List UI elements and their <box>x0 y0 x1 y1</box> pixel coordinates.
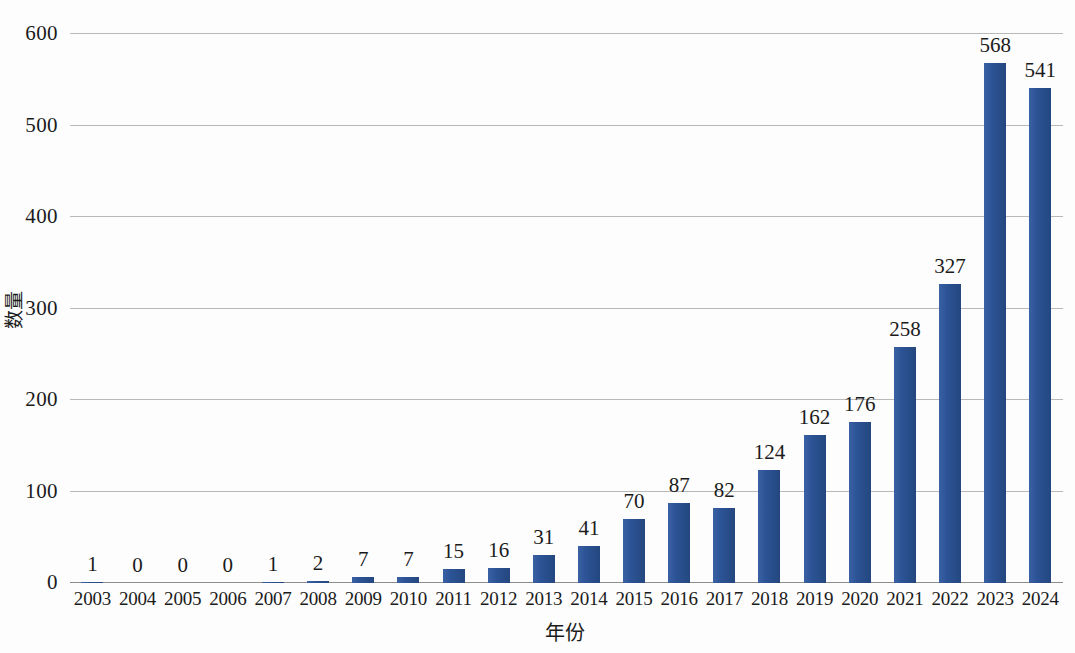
bar-group: 258 <box>882 34 927 583</box>
bar-group: 124 <box>747 34 792 583</box>
y-axis-tick-label: 0 <box>0 572 58 593</box>
x-axis-tick-label: 2017 <box>702 589 747 608</box>
bar <box>984 63 1006 583</box>
y-axis-tick-label: 200 <box>0 389 58 410</box>
bar-value-label: 541 <box>1025 60 1057 81</box>
bar-value-label: 70 <box>624 491 645 512</box>
bar-value-label: 41 <box>578 518 599 539</box>
bar-value-label: 7 <box>358 549 369 570</box>
x-axis-tick-label: 2015 <box>612 589 657 608</box>
x-axis-tick-label: 2007 <box>251 589 296 608</box>
bar-value-label: 124 <box>754 442 786 463</box>
y-axis-tick-label: 500 <box>0 115 58 136</box>
bar <box>352 577 374 583</box>
x-axis-tick-label: 2012 <box>476 589 521 608</box>
x-axis-tick-label: 2018 <box>747 589 792 608</box>
bar-group: 1 <box>70 34 115 583</box>
y-axis-tick-label: 100 <box>0 481 58 502</box>
bar <box>488 568 510 583</box>
bar <box>443 569 465 583</box>
x-axis-tick-label: 2011 <box>431 589 476 608</box>
bar-value-label: 7 <box>403 549 414 570</box>
bar-group: 7 <box>341 34 386 583</box>
bar-group: 541 <box>1018 34 1063 583</box>
bar-group: 162 <box>792 34 837 583</box>
bar-value-label: 82 <box>714 480 735 501</box>
bar-group: 82 <box>702 34 747 583</box>
bar-group: 0 <box>160 34 205 583</box>
bar-value-label: 568 <box>979 35 1011 56</box>
bar-value-label: 15 <box>443 541 464 562</box>
bar <box>307 581 329 583</box>
bar-value-label: 2 <box>313 553 324 574</box>
bar <box>397 577 419 583</box>
x-axis-tick-label: 2023 <box>973 589 1018 608</box>
x-axis-tick-label: 2014 <box>567 589 612 608</box>
bar-value-label: 176 <box>844 394 876 415</box>
bar-value-label: 0 <box>132 555 143 576</box>
bar-group: 16 <box>476 34 521 583</box>
bar-value-label: 162 <box>799 407 831 428</box>
bar-group: 1 <box>251 34 296 583</box>
bar-group: 327 <box>928 34 973 583</box>
y-axis-tick-labels: 0100200300400500600 <box>0 34 58 583</box>
y-axis-tick-label: 400 <box>0 206 58 227</box>
x-axis-tick-labels: 2003200420052006200720082009201020112012… <box>70 589 1063 617</box>
bar-value-label: 1 <box>87 554 98 575</box>
bar-group: 87 <box>657 34 702 583</box>
x-axis-tick-label: 2003 <box>70 589 115 608</box>
x-axis-tick-label: 2013 <box>521 589 566 608</box>
bar-value-label: 16 <box>488 540 509 561</box>
x-axis-tick-label: 2005 <box>160 589 205 608</box>
bar <box>1029 88 1051 583</box>
bar <box>894 347 916 583</box>
bar-group: 70 <box>612 34 657 583</box>
bar-group: 176 <box>837 34 882 583</box>
x-axis-tick-label: 2006 <box>205 589 250 608</box>
bar-value-label: 31 <box>533 527 554 548</box>
bar-group: 2 <box>296 34 341 583</box>
bar <box>849 422 871 583</box>
bar-value-label: 0 <box>177 555 188 576</box>
bar <box>713 508 735 583</box>
y-axis-tick-label: 300 <box>0 298 58 319</box>
bar <box>804 435 826 583</box>
bar-group: 568 <box>973 34 1018 583</box>
bar-value-label: 0 <box>223 555 234 576</box>
x-axis-tick-label: 2022 <box>928 589 973 608</box>
bar-group: 7 <box>386 34 431 583</box>
bar <box>81 582 103 583</box>
bar <box>623 519 645 583</box>
bar-group: 0 <box>115 34 160 583</box>
x-axis-title: 年份 <box>0 617 1075 646</box>
bar <box>262 582 284 583</box>
x-axis-tick-label: 2010 <box>386 589 431 608</box>
bar <box>758 470 780 583</box>
x-axis-tick-label: 2024 <box>1018 589 1063 608</box>
bar-chart: 数量 0100200300400500600 10001277151631417… <box>0 0 1075 653</box>
bar-group: 0 <box>205 34 250 583</box>
bar-group: 31 <box>521 34 566 583</box>
bar-value-label: 1 <box>268 554 279 575</box>
x-axis-title-text: 年份 <box>545 617 585 646</box>
bar <box>578 546 600 584</box>
x-axis-tick-label: 2009 <box>341 589 386 608</box>
bar-group: 41 <box>567 34 612 583</box>
bar <box>668 503 690 583</box>
bar <box>533 555 555 583</box>
bar-group: 15 <box>431 34 476 583</box>
x-axis-tick-label: 2020 <box>837 589 882 608</box>
bar-value-label: 258 <box>889 319 921 340</box>
bar-value-label: 87 <box>669 475 690 496</box>
x-axis-tick-label: 2008 <box>296 589 341 608</box>
x-axis-tick-label: 2019 <box>792 589 837 608</box>
plot-area: 1000127715163141708782124162176258327568… <box>70 34 1063 583</box>
y-axis-tick-label: 600 <box>0 23 58 44</box>
x-axis-tick-label: 2016 <box>657 589 702 608</box>
bar-value-label: 327 <box>934 256 966 277</box>
bar <box>939 284 961 583</box>
x-axis-tick-label: 2004 <box>115 589 160 608</box>
x-axis-tick-label: 2021 <box>882 589 927 608</box>
